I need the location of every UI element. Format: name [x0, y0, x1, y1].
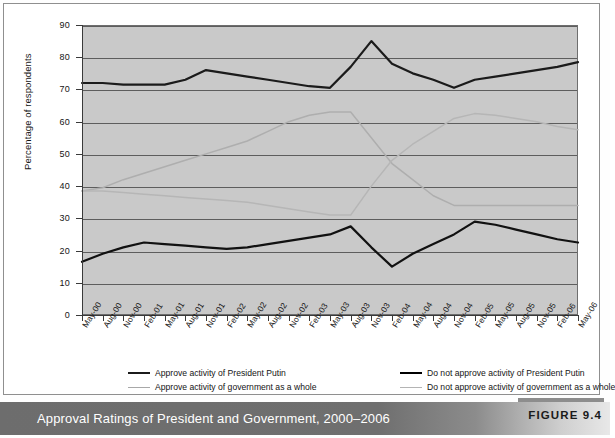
legend-item-disapprove-putin: Do not approve activity of President Put…: [400, 366, 615, 380]
legend-item-approve-putin: Approve activity of President Putin: [128, 366, 400, 380]
legend-swatch-icon: [128, 387, 150, 388]
y-axis-tick: [76, 218, 82, 219]
series-line-0: [82, 41, 578, 88]
y-axis-tick-label: 70: [60, 84, 70, 94]
series-line-3: [82, 114, 578, 216]
legend-swatch-icon: [128, 372, 150, 374]
y-axis-tick: [76, 186, 82, 187]
y-axis-tick-label: 60: [60, 117, 70, 127]
series-line-1: [82, 222, 578, 267]
y-axis-tick: [76, 57, 82, 58]
y-axis-tick-label: 50: [60, 149, 70, 159]
chart-area: 0102030405060708090 Percentage of respon…: [0, 0, 610, 396]
legend-label: Approve activity of President Putin: [155, 368, 286, 378]
y-axis-tick-label: 0: [65, 310, 70, 320]
y-axis-tick-label: 40: [60, 181, 70, 191]
figure-caption: Approval Ratings of President and Govern…: [37, 411, 390, 426]
legend-swatch-icon: [400, 372, 422, 374]
y-axis-tick-label: 20: [60, 246, 70, 256]
y-axis-tick-label: 10: [60, 278, 70, 288]
series-line-2: [82, 112, 578, 205]
x-axis-tick-label: May-06: [576, 300, 599, 329]
legend-label: Do not approve activity of government as…: [427, 382, 615, 392]
legend-label: Approve activity of government as a whol…: [155, 382, 316, 392]
data-lines: [82, 25, 578, 315]
legend-label: Do not approve activity of President Put…: [427, 368, 585, 378]
legend-swatch-icon: [400, 387, 422, 388]
y-axis-title: Percentage of respondents: [22, 53, 33, 170]
y-axis-tick: [76, 122, 82, 123]
y-axis-tick: [76, 251, 82, 252]
y-axis-tick-label: 80: [60, 52, 70, 62]
y-axis-tick: [76, 154, 82, 155]
y-axis-tick: [76, 25, 82, 26]
caption-bar: Approval Ratings of President and Govern…: [0, 402, 610, 435]
y-axis-tick-label: 30: [60, 213, 70, 223]
figure-number-label: FIGURE 9.4: [528, 409, 602, 421]
legend-item-approve-government: Approve activity of government as a whol…: [128, 380, 400, 394]
chart-legend: Approve activity of President Putin Do n…: [128, 366, 568, 394]
y-axis-tick: [76, 89, 82, 90]
y-axis: 0102030405060708090: [74, 25, 83, 315]
y-axis-tick: [76, 283, 82, 284]
y-axis-tick-label: 90: [60, 20, 70, 30]
legend-item-disapprove-government: Do not approve activity of government as…: [400, 380, 615, 394]
